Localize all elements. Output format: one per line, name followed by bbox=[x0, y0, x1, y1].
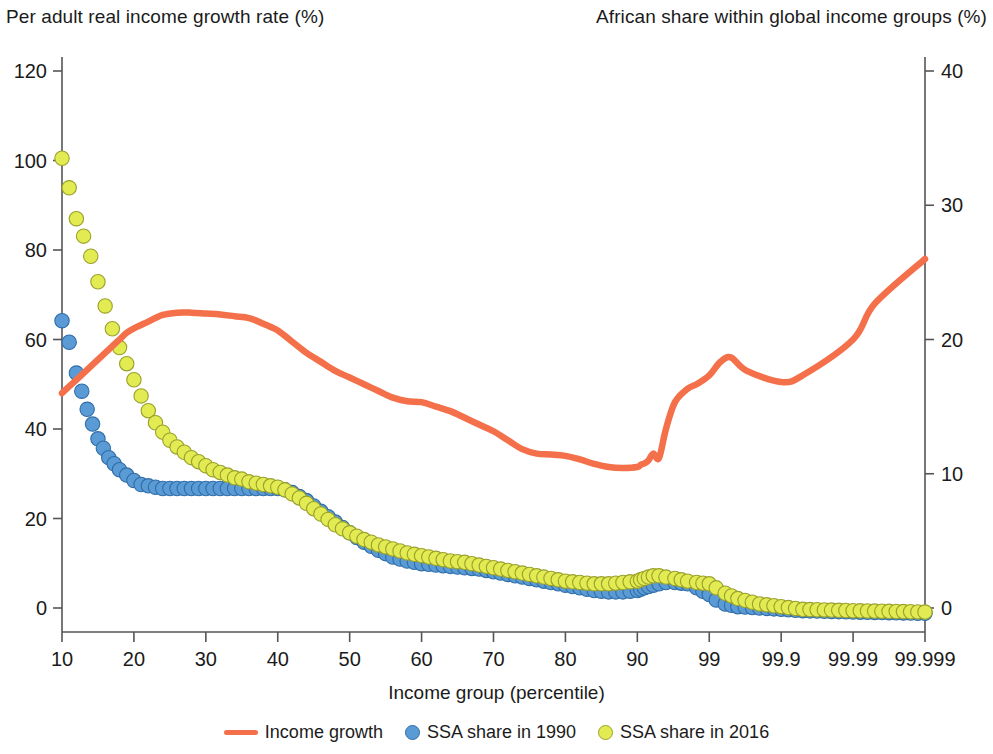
legend-line-swatch bbox=[224, 730, 258, 735]
svg-text:99.999: 99.999 bbox=[894, 648, 955, 670]
x-axis-title: Income group (percentile) bbox=[0, 682, 993, 704]
svg-text:20: 20 bbox=[123, 648, 145, 670]
legend-item-label: SSA share in 1990 bbox=[427, 722, 576, 743]
scatter-series bbox=[55, 151, 932, 619]
chart-legend: Income growthSSA share in 1990SSA share … bbox=[0, 722, 993, 743]
legend-dot-swatch bbox=[598, 725, 613, 740]
svg-text:80: 80 bbox=[25, 239, 47, 261]
legend-item-label: SSA share in 2016 bbox=[620, 722, 769, 743]
svg-text:20: 20 bbox=[25, 508, 47, 530]
svg-text:90: 90 bbox=[626, 648, 648, 670]
svg-text:60: 60 bbox=[25, 329, 47, 351]
right-axis-title: African share within global income group… bbox=[596, 6, 987, 28]
income-growth-line bbox=[62, 259, 925, 468]
svg-text:80: 80 bbox=[554, 648, 576, 670]
svg-text:40: 40 bbox=[25, 418, 47, 440]
svg-text:0: 0 bbox=[941, 597, 952, 619]
svg-text:20: 20 bbox=[941, 329, 963, 351]
svg-text:30: 30 bbox=[941, 194, 963, 216]
legend-item[interactable]: Income growth bbox=[224, 722, 383, 743]
chart-figure: Per adult real income growth rate (%) Af… bbox=[0, 0, 993, 754]
svg-text:40: 40 bbox=[941, 60, 963, 82]
left-axis-title: Per adult real income growth rate (%) bbox=[6, 6, 324, 28]
legend-item-label: Income growth bbox=[265, 722, 383, 743]
svg-text:99: 99 bbox=[698, 648, 720, 670]
svg-text:10: 10 bbox=[51, 648, 73, 670]
svg-text:120: 120 bbox=[14, 60, 47, 82]
svg-text:60: 60 bbox=[410, 648, 432, 670]
svg-text:40: 40 bbox=[267, 648, 289, 670]
svg-text:100: 100 bbox=[14, 150, 47, 172]
plot-area: 0204060801001200102030401020304050607080… bbox=[0, 0, 993, 700]
legend-item[interactable]: SSA share in 1990 bbox=[405, 722, 576, 743]
svg-text:99.99: 99.99 bbox=[828, 648, 878, 670]
legend-item[interactable]: SSA share in 2016 bbox=[598, 722, 769, 743]
svg-text:10: 10 bbox=[941, 463, 963, 485]
svg-text:0: 0 bbox=[36, 597, 47, 619]
svg-text:70: 70 bbox=[482, 648, 504, 670]
svg-text:99.9: 99.9 bbox=[762, 648, 801, 670]
svg-text:30: 30 bbox=[195, 648, 217, 670]
data-series bbox=[55, 151, 932, 621]
svg-text:50: 50 bbox=[339, 648, 361, 670]
legend-dot-swatch bbox=[405, 725, 420, 740]
